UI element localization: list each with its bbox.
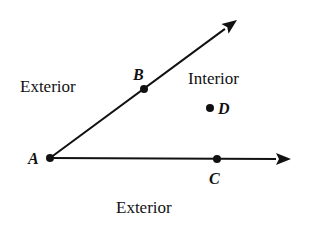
region-label-exterior: Exterior <box>116 198 172 217</box>
point-c-dot <box>213 155 221 163</box>
ray-AB <box>50 29 225 158</box>
point-d-dot <box>206 104 214 112</box>
point-b-dot <box>140 85 148 93</box>
point-b-label: B <box>132 66 144 83</box>
point-a-label: A <box>27 150 39 167</box>
diagram-svg: ABCDExteriorInteriorExterior <box>0 0 309 227</box>
angle-diagram: ABCDExteriorInteriorExterior <box>0 0 309 227</box>
point-d-label: D <box>217 100 230 117</box>
point-c-label: C <box>209 170 220 187</box>
arrowhead-icon <box>221 20 237 34</box>
arrowhead-icon <box>276 153 291 165</box>
ray-AC <box>50 158 276 159</box>
region-label-interior: Interior <box>188 69 239 88</box>
point-a-dot <box>46 154 54 162</box>
region-label-exterior: Exterior <box>20 77 76 96</box>
